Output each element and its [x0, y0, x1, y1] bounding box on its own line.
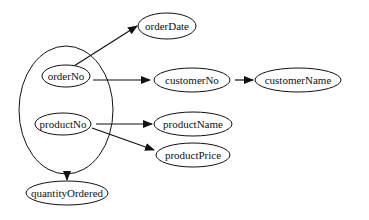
node-productPrice: productPrice: [156, 143, 230, 167]
node-productNo: productNo: [35, 113, 91, 135]
edge-orderNo-orderDate: [74, 26, 137, 66]
dependency-diagram: orderNo productNo orderDate customerNo c…: [0, 0, 369, 220]
node-productName: productName: [154, 112, 232, 136]
node-label: orderNo: [48, 70, 85, 82]
node-label: productName: [163, 118, 223, 130]
node-customerName: customerName: [255, 68, 341, 92]
node-orderNo: orderNo: [42, 65, 90, 87]
node-customerNo: customerNo: [154, 68, 230, 92]
edge-productNo-productPrice: [92, 128, 154, 150]
node-label: customerName: [265, 74, 332, 86]
node-label: productNo: [39, 118, 87, 130]
node-quantityOrdered: quantityOrdered: [26, 181, 108, 205]
node-label: orderDate: [145, 20, 189, 32]
node-label: productPrice: [165, 149, 221, 161]
node-label: customerNo: [165, 74, 219, 86]
node-orderDate: orderDate: [138, 13, 196, 39]
node-label: quantityOrdered: [31, 187, 104, 199]
